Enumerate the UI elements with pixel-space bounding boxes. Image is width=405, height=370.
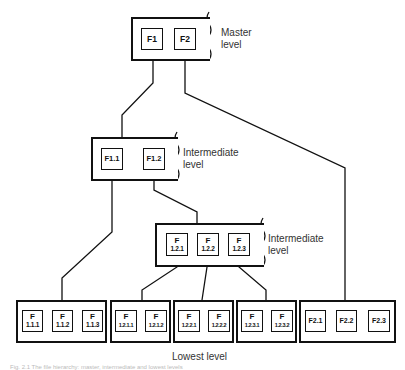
node-f2: F2 xyxy=(174,28,196,50)
node-label-top: F xyxy=(60,313,65,321)
node-f1-2-2: F 1.2.2 xyxy=(197,233,219,256)
node-label: F2 xyxy=(180,35,190,43)
node-label-top: F xyxy=(154,313,159,321)
node-label: F1.2 xyxy=(146,155,161,163)
node-label: F1 xyxy=(147,35,157,43)
node-label-top: F xyxy=(237,237,242,245)
node-label-bottom: 1.2.1.1 xyxy=(119,321,134,329)
node-label-bottom: 1.2.1.2 xyxy=(149,321,164,329)
node-label-top: F xyxy=(30,313,35,321)
intermediate1-level-label: Intermediate level xyxy=(183,147,239,171)
node-label-top: F xyxy=(217,313,222,321)
node-label-top: F xyxy=(206,237,211,245)
node-f1-1: F1.1 xyxy=(101,148,123,170)
node-label-bottom: 1.1.1 xyxy=(26,321,39,329)
node-label-bottom: 1.2.1 xyxy=(171,245,184,253)
node-label-top: F xyxy=(187,313,192,321)
node-f1-2-3-2: F 1.2.3.2 xyxy=(271,310,293,332)
node-label: F1.1 xyxy=(104,155,119,163)
node-f2-2: F2.2 xyxy=(336,310,357,332)
lowest-level-label: Lowest level xyxy=(172,351,227,363)
node-f1-2: F1.2 xyxy=(143,148,165,170)
node-label: F2.1 xyxy=(308,317,322,325)
node-f2-1: F2.1 xyxy=(305,310,326,332)
node-f1: F1 xyxy=(141,28,163,50)
node-label-bottom: 1.2.2.1 xyxy=(182,321,197,329)
node-label-bottom: 1.2.3.1 xyxy=(245,321,260,329)
node-label-top: F xyxy=(250,313,255,321)
node-label-bottom: 1.2.2 xyxy=(202,245,215,253)
node-f1-1-2: F 1.1.2 xyxy=(52,310,73,332)
node-f1-2-3: F 1.2.3 xyxy=(228,233,250,256)
node-label-top: F xyxy=(280,313,285,321)
connector-f11-to-lowest-a xyxy=(62,170,112,300)
node-f1-2-1: F 1.2.1 xyxy=(166,233,188,256)
figure-caption: Fig. 2.1 The file hierarchy: master, int… xyxy=(10,364,183,370)
node-f1-2-2-2: F 1.2.2.2 xyxy=(208,310,230,332)
intermediate2-level-label: Intermediate level xyxy=(268,233,324,257)
node-f1-2-2-1: F 1.2.2.1 xyxy=(178,310,200,332)
node-f1-2-3-1: F 1.2.3.1 xyxy=(241,310,263,332)
node-f2-3: F2.3 xyxy=(368,310,390,332)
node-label-bottom: 1.1.2 xyxy=(56,321,69,329)
node-label-bottom: 1.2.2.2 xyxy=(212,321,227,329)
connector-f1-to-intermediate1 xyxy=(122,50,153,137)
node-label-bottom: 1.2.3 xyxy=(233,245,246,253)
node-f1-2-1-2: F 1.2.1.2 xyxy=(145,310,167,332)
master-level-label: Master level xyxy=(221,27,252,51)
node-label-top: F xyxy=(124,313,129,321)
node-label: F2.3 xyxy=(372,317,386,325)
node-label-top: F xyxy=(90,313,95,321)
node-f1-1-3: F 1.1.3 xyxy=(82,310,103,332)
node-label: F2.2 xyxy=(339,317,353,325)
node-f1-2-1-1: F 1.2.1.1 xyxy=(115,310,137,332)
node-label-bottom: 1.1.3 xyxy=(86,321,99,329)
node-label-bottom: 1.2.3.2 xyxy=(275,321,290,329)
node-label-top: F xyxy=(175,237,180,245)
node-f1-1-1: F 1.1.1 xyxy=(22,310,43,332)
